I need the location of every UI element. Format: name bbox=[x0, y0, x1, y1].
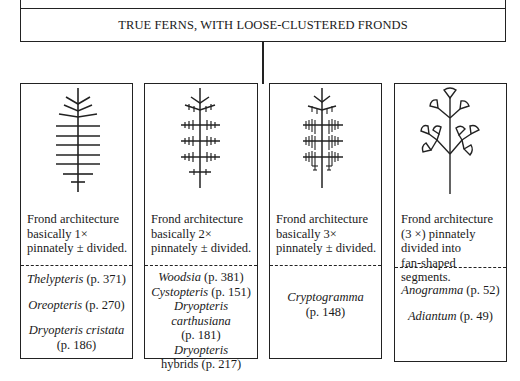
desc-line: basically 3× bbox=[276, 227, 377, 242]
desc-line: pinnately ± divided. bbox=[151, 241, 253, 256]
genus-entry: Dryopteris cristata(p. 186) bbox=[23, 323, 130, 352]
desc-line: (3 ×) pinnately bbox=[401, 227, 502, 242]
genera-list: Woodsia (p. 381) Cystopteris (p. 151) Dr… bbox=[147, 270, 255, 372]
genus-entry: Cryptogramma(p. 148) bbox=[272, 290, 379, 319]
genera-list: Thelypteris (p. 371) Oreopteris (p. 270)… bbox=[23, 272, 130, 352]
genus-name: Thelypteris bbox=[27, 272, 83, 286]
desc-line: Frond architecture bbox=[27, 212, 128, 227]
desc-line: Frond architecture bbox=[151, 212, 253, 227]
dashed-divider bbox=[395, 267, 506, 268]
diagram-title: TRUE FERNS, WITH LOOSE-CLUSTERED FRONDS bbox=[20, 8, 506, 42]
genus-entry: Dryopterishybrids (p. 217) bbox=[147, 343, 255, 372]
frond-description: Frond architecture basically 2× pinnatel… bbox=[151, 212, 253, 256]
once-pinnate-frond-icon bbox=[21, 84, 134, 204]
frond-description: Frond architecture basically 1× pinnatel… bbox=[27, 212, 128, 256]
desc-line: pinnately ± divided. bbox=[276, 241, 377, 256]
page-ref: (p. 151) bbox=[211, 285, 251, 299]
desc-line: basically 2× bbox=[151, 227, 253, 242]
genus-name: Cystopteris bbox=[151, 285, 208, 299]
desc-line: fan-shaped segments. bbox=[401, 256, 502, 285]
page-ref: (p. 186) bbox=[57, 338, 97, 352]
desc-line: pinnately ± divided. bbox=[27, 241, 128, 256]
genus-entry: Cystopteris (p. 151) bbox=[147, 285, 255, 300]
page-ref: (p. 148) bbox=[306, 305, 346, 319]
page-ref: (p. 270) bbox=[85, 298, 125, 312]
desc-line: Frond architecture bbox=[401, 212, 502, 227]
frond-description: Frond architecture (3 ×) pinnately divid… bbox=[401, 212, 502, 285]
connector-stem bbox=[262, 41, 264, 84]
page-ref: (p. 181) bbox=[181, 328, 221, 342]
genus-name: Oreopteris bbox=[28, 298, 82, 312]
genus-entry: Oreopteris (p. 270) bbox=[23, 298, 130, 313]
genus-name: Dryopteris bbox=[174, 343, 228, 357]
title-text: TRUE FERNS, WITH LOOSE-CLUSTERED FRONDS bbox=[118, 18, 407, 33]
genus-entry: Adiantum (p. 49) bbox=[397, 309, 504, 324]
dashed-divider bbox=[270, 265, 381, 266]
genus-name: Woodsia bbox=[158, 270, 201, 284]
genus-name: Dryopteris cristata bbox=[29, 323, 124, 337]
genus-entry: Dryopteris carthusiana (p. 181) bbox=[147, 299, 255, 343]
page-ref: (p. 49) bbox=[460, 309, 493, 323]
frond-description: Frond architecture basically 3× pinnatel… bbox=[276, 212, 377, 256]
twice-pinnate-frond-icon bbox=[145, 84, 259, 204]
genus-name: Dryopteris carthusiana bbox=[151, 299, 251, 328]
column-fan-segments: Frond architecture (3 ×) pinnately divid… bbox=[394, 83, 507, 362]
column-2x-pinnate: Frond architecture basically 2× pinnatel… bbox=[144, 83, 258, 359]
desc-line: basically 1× bbox=[27, 227, 128, 242]
page-ref: (p. 371) bbox=[86, 272, 126, 286]
genus-name: Cryptogramma bbox=[287, 290, 363, 304]
genera-list: Cryptogramma(p. 148) bbox=[272, 290, 379, 319]
page-ref: (p. 381) bbox=[204, 270, 244, 284]
column-1x-pinnate: Frond architecture basically 1× pinnatel… bbox=[20, 83, 133, 359]
column-3x-pinnate: Frond architecture basically 3× pinnatel… bbox=[269, 83, 382, 359]
genus-name: Adiantum bbox=[408, 309, 457, 323]
genus-name: Anogramma bbox=[401, 283, 463, 297]
desc-line: divided into bbox=[401, 241, 502, 256]
dashed-divider bbox=[21, 265, 132, 266]
page-ref: (p. 217) bbox=[202, 357, 242, 371]
genera-list: Anogramma (p. 52) Adiantum (p. 49) bbox=[397, 283, 504, 323]
fan-segment-frond-icon bbox=[395, 84, 508, 204]
thrice-pinnate-frond-icon bbox=[270, 84, 383, 204]
genus-suffix: hybrids bbox=[161, 357, 199, 371]
genus-entry: Woodsia (p. 381) bbox=[147, 270, 255, 285]
desc-line: Frond architecture bbox=[276, 212, 377, 227]
genus-entry: Thelypteris (p. 371) bbox=[23, 272, 130, 287]
page-ref: (p. 52) bbox=[466, 283, 499, 297]
genus-entry: Anogramma (p. 52) bbox=[397, 283, 504, 298]
dashed-divider bbox=[145, 265, 257, 266]
